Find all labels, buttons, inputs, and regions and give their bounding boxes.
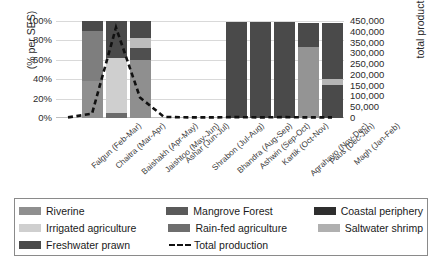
legend-swatch-icon	[314, 207, 336, 215]
legend-swatch-icon	[19, 207, 41, 215]
legend-label: Mangrove Forest	[193, 205, 272, 217]
legend-label: Freshwater prawn	[46, 239, 130, 251]
legend-item-saltwater-shrimp[interactable]: Saltwater shrimp	[318, 222, 423, 234]
legend-label: Riverine	[46, 205, 85, 217]
y-axis-right-tick: 350,000	[350, 38, 384, 48]
y-axis-left-tick: 100%	[0, 16, 52, 26]
total-production-line	[56, 21, 344, 118]
legend-row: Riverine Mangrove Forest Coastal periphe…	[19, 202, 423, 219]
chart-legend: Riverine Mangrove Forest Coastal periphe…	[14, 198, 428, 256]
y-axis-right-tick: 250,000	[350, 59, 384, 69]
legend-label: Saltwater shrimp	[345, 222, 423, 234]
y-axis-right-tick: 450,000	[350, 16, 384, 26]
y-axis-left-tick: 80%	[0, 35, 52, 45]
legend-item-freshwater-prawn[interactable]: Freshwater prawn	[19, 239, 169, 251]
y-axis-right-tick: 150,000	[350, 81, 384, 91]
legend-swatch-icon	[166, 207, 188, 215]
y-axis-right-title: total production (kg)	[414, 0, 426, 77]
legend-label: Total production	[194, 239, 268, 251]
y-axis-right-tick: 300,000	[350, 48, 384, 58]
dashed-line-icon	[169, 244, 191, 246]
legend-label: Irrigated agriculture	[46, 222, 136, 234]
legend-item-coastal-periphery[interactable]: Coastal periphery	[314, 205, 423, 217]
y-axis-left-tick: 40%	[0, 74, 52, 84]
legend-row: Freshwater prawn Total production	[19, 236, 423, 253]
legend-swatch-icon	[318, 224, 340, 232]
legend-item-riverine[interactable]: Riverine	[19, 205, 166, 217]
line-path	[68, 28, 332, 118]
chart-root: (% per SES) total production (kg) 100%80…	[0, 0, 443, 272]
legend-row: Irrigated agriculture Rain-fed agricultu…	[19, 219, 423, 236]
y-axis-left-tick: 60%	[0, 55, 52, 65]
plot-area	[56, 21, 344, 118]
legend-label: Rain-fed agriculture	[195, 222, 287, 234]
legend-label: Coastal periphery	[341, 205, 423, 217]
y-axis-right-tick: 50,000	[350, 102, 379, 112]
x-axis-labels: Falgun (Feb-Mar)Chaitra (Mar-Apr)Baishak…	[0, 120, 443, 190]
y-axis-right-tick: 400,000	[350, 27, 384, 37]
y-axis-right-tick: 200,000	[350, 70, 384, 80]
legend-item-total-production[interactable]: Total production	[169, 239, 319, 251]
legend-swatch-icon	[168, 224, 190, 232]
y-axis-left-tick: 20%	[0, 94, 52, 104]
legend-swatch-icon	[19, 241, 41, 249]
legend-item-rain-fed-agriculture[interactable]: Rain-fed agriculture	[168, 222, 317, 234]
legend-swatch-icon	[19, 224, 41, 232]
y-axis-right-tick: 100,000	[350, 91, 384, 101]
legend-item-irrigated-agriculture[interactable]: Irrigated agriculture	[19, 222, 168, 234]
legend-item-mangrove-forest[interactable]: Mangrove Forest	[166, 205, 313, 217]
